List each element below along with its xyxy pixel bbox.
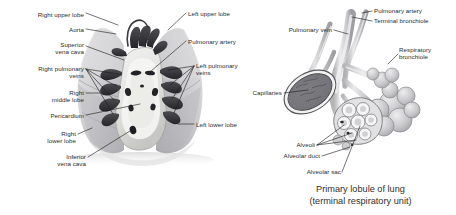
label-alveolar-sac: Alveolar sac [295, 168, 341, 175]
label-alveolar-duct: Alveolar duct [272, 152, 320, 159]
label-superior-vena-cava: Superior vena cava [28, 41, 84, 56]
label-pulmonary-artery: Pulmonary artery [374, 7, 456, 14]
label-right-middle-lobe: Right middle lobe [22, 89, 84, 104]
figure-caption: Primary lobule of lung (terminal respira… [278, 184, 443, 207]
label-left-lower-lobe: Left lower lobe [196, 121, 264, 128]
label-pericardium: Pericardium [12, 112, 84, 119]
label-pulmonary-artery-left-panel: Pulmonary artery [188, 38, 260, 45]
label-inferior-vena-cava: Inferior vena cava [30, 153, 86, 168]
label-alveoli: Alveoli [283, 141, 315, 148]
label-left-upper-lobe: Left upper lobe [188, 10, 258, 17]
label-right-pulmonary-veins: Right pulmonary veins [8, 65, 84, 80]
label-aorta: Aorta [42, 26, 84, 33]
label-respiratory-bronchiole: Respiratory bronchiole [399, 46, 455, 61]
label-left-pulmonary-veins: Left pulmonary veins [196, 62, 266, 77]
lung-anatomy-figure: Right upper lobe Aorta Superior vena cav… [0, 0, 456, 215]
label-right-lower-lobe: Right lower lobe [20, 130, 76, 145]
label-right-upper-lobe: Right upper lobe [22, 11, 84, 18]
label-capillaries: Capillaries [238, 89, 282, 96]
label-pulmonary-vein: Pulmonary vein [272, 26, 332, 33]
label-terminal-bronchiole: Terminal bronchiole [374, 17, 456, 24]
